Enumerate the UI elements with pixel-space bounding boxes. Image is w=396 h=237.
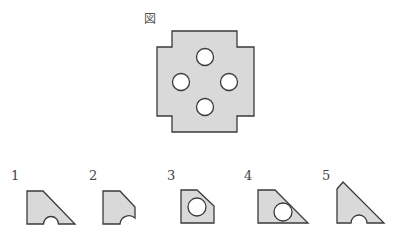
cross-plate [157, 31, 254, 132]
figure-label: 図 [144, 12, 156, 26]
option-2[interactable]: 2 [89, 168, 135, 224]
option-3-number: 3 [167, 168, 175, 183]
option-2-piece [103, 191, 135, 224]
option-2-number: 2 [89, 168, 97, 183]
option-1-number: 1 [11, 168, 19, 183]
puzzle-canvas: 図 1 2 3 4 5 [0, 0, 396, 237]
hole-top [197, 49, 214, 66]
option-4[interactable]: 4 [244, 168, 308, 223]
option-3-hole [188, 198, 206, 216]
main-figure [157, 31, 254, 132]
option-4-hole [274, 203, 292, 221]
option-1-piece [27, 191, 75, 224]
hole-left [173, 74, 190, 91]
hole-right [221, 74, 238, 91]
option-5-number: 5 [322, 168, 330, 183]
option-3[interactable]: 3 [167, 168, 214, 223]
option-5-piece [337, 182, 384, 223]
hole-bottom [197, 99, 214, 116]
option-1[interactable]: 1 [11, 168, 75, 224]
option-5[interactable]: 5 [322, 168, 384, 223]
option-4-number: 4 [244, 168, 252, 183]
